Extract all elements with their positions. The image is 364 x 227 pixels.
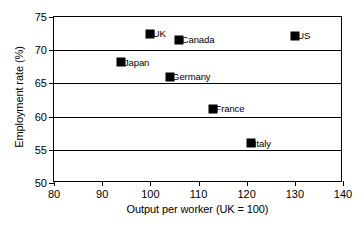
- data-point-label-germany: Germany: [172, 71, 210, 82]
- data-point-france[interactable]: France: [208, 104, 217, 113]
- data-point-label-italy: Italy: [254, 138, 271, 149]
- x-tick-mark-110: [199, 181, 200, 186]
- y-tick-label-75: 75: [35, 11, 47, 23]
- x-tick-label-90: 90: [96, 188, 108, 200]
- y-tick-label-60: 60: [35, 111, 47, 123]
- scatter-chart-figure: Employment rate (%) 50556065707580901001…: [0, 0, 364, 227]
- x-tick-mark-120: [247, 181, 248, 186]
- gridline-y-70: [54, 50, 341, 51]
- y-tick-label-50: 50: [35, 177, 47, 189]
- x-tick-label-140: 140: [334, 188, 352, 200]
- y-axis-title: Employment rate (%): [13, 12, 25, 182]
- data-point-italy[interactable]: Italy: [247, 139, 256, 148]
- data-point-canada[interactable]: Canada: [175, 35, 184, 44]
- y-tick-label-65: 65: [35, 77, 47, 89]
- y-tick-mark-70: [49, 50, 54, 51]
- gridline-y-60: [54, 117, 341, 118]
- x-tick-mark-140: [343, 181, 344, 186]
- data-point-label-japan: Japan: [124, 57, 149, 68]
- y-tick-mark-60: [49, 117, 54, 118]
- data-point-label-canada: Canada: [182, 34, 215, 45]
- x-tick-label-130: 130: [286, 188, 304, 200]
- x-tick-label-100: 100: [141, 188, 159, 200]
- data-point-label-uk: UK: [153, 28, 166, 39]
- x-tick-label-120: 120: [237, 188, 255, 200]
- y-tick-label-55: 55: [35, 144, 47, 156]
- x-axis-title: Output per worker (UK = 100): [53, 203, 342, 215]
- y-tick-mark-55: [49, 150, 54, 151]
- x-tick-mark-130: [295, 181, 296, 186]
- data-point-germany[interactable]: Germany: [165, 72, 174, 81]
- y-tick-label-70: 70: [35, 44, 47, 56]
- x-tick-label-80: 80: [48, 188, 60, 200]
- x-tick-mark-100: [150, 181, 151, 186]
- data-point-us[interactable]: US: [290, 31, 299, 40]
- data-point-japan[interactable]: Japan: [117, 58, 126, 67]
- x-tick-mark-90: [102, 181, 103, 186]
- gridline-y-55: [54, 150, 341, 151]
- x-tick-mark-80: [54, 181, 55, 186]
- data-point-label-us: US: [297, 30, 310, 41]
- gridline-y-65: [54, 83, 341, 84]
- data-point-uk[interactable]: UK: [146, 29, 155, 38]
- plot-area: 5055606570758090100110120130140UKCanadaU…: [53, 16, 342, 182]
- x-tick-label-110: 110: [190, 188, 208, 200]
- data-point-label-france: France: [215, 103, 244, 114]
- y-tick-mark-75: [49, 17, 54, 18]
- y-tick-mark-65: [49, 83, 54, 84]
